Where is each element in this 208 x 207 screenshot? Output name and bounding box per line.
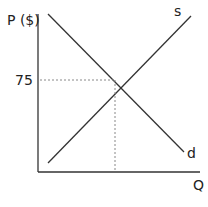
diagram-canvas xyxy=(0,0,208,207)
price-tick-label: 75 xyxy=(15,73,33,87)
supply-demand-diagram: P ($) 75 s d Q xyxy=(0,0,208,207)
supply-curve xyxy=(48,16,191,163)
y-axis-label: P ($) xyxy=(7,13,40,27)
supply-label: s xyxy=(174,4,181,18)
x-axis-label: Q xyxy=(193,178,204,192)
demand-label: d xyxy=(187,146,196,160)
demand-curve xyxy=(48,14,184,152)
